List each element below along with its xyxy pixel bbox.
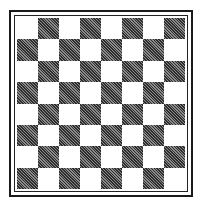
board-square-light <box>164 168 185 189</box>
board-square-dark <box>122 18 143 39</box>
board-square-light <box>122 168 143 189</box>
board-square-light <box>122 82 143 103</box>
board-square-dark <box>143 125 164 146</box>
board-square-dark <box>164 61 185 82</box>
board-square-light <box>17 61 38 82</box>
board-square-dark <box>143 168 164 189</box>
board-square-dark <box>143 39 164 60</box>
board-square-light <box>38 168 59 189</box>
board-square-dark <box>17 168 38 189</box>
board-square-dark <box>143 82 164 103</box>
board-square-light <box>101 61 122 82</box>
board-square-dark <box>38 61 59 82</box>
board-square-dark <box>164 104 185 125</box>
board-square-dark <box>17 82 38 103</box>
board-square-dark <box>38 18 59 39</box>
board-square-dark <box>122 104 143 125</box>
checkerboard-grid <box>17 18 185 189</box>
board-square-light <box>59 146 80 167</box>
board-square-dark <box>38 146 59 167</box>
board-square-dark <box>101 125 122 146</box>
board-inner-frame <box>14 15 188 192</box>
board-square-light <box>17 104 38 125</box>
board-square-dark <box>101 39 122 60</box>
board-square-light <box>164 82 185 103</box>
board-square-dark <box>164 146 185 167</box>
board-square-dark <box>101 82 122 103</box>
board-square-dark <box>122 146 143 167</box>
board-square-light <box>143 104 164 125</box>
board-square-light <box>38 82 59 103</box>
board-square-dark <box>59 82 80 103</box>
board-square-light <box>80 39 101 60</box>
board-square-light <box>38 125 59 146</box>
board-outer-frame <box>9 10 193 197</box>
board-square-light <box>143 18 164 39</box>
board-square-light <box>80 168 101 189</box>
board-square-dark <box>59 168 80 189</box>
board-square-dark <box>101 168 122 189</box>
board-square-light <box>80 125 101 146</box>
board-square-light <box>101 104 122 125</box>
board-square-dark <box>80 61 101 82</box>
board-square-dark <box>38 104 59 125</box>
board-square-light <box>59 104 80 125</box>
board-square-light <box>101 18 122 39</box>
board-square-light <box>17 18 38 39</box>
board-square-dark <box>80 18 101 39</box>
board-square-dark <box>80 146 101 167</box>
board-square-light <box>38 39 59 60</box>
board-square-light <box>122 125 143 146</box>
board-square-light <box>164 125 185 146</box>
board-square-light <box>122 39 143 60</box>
board-square-dark <box>59 39 80 60</box>
board-square-light <box>80 82 101 103</box>
board-square-light <box>143 61 164 82</box>
board-square-dark <box>17 39 38 60</box>
board-square-dark <box>122 61 143 82</box>
board-square-light <box>164 39 185 60</box>
board-square-light <box>143 146 164 167</box>
board-square-dark <box>17 125 38 146</box>
board-square-light <box>59 18 80 39</box>
board-square-dark <box>59 125 80 146</box>
board-square-light <box>59 61 80 82</box>
board-square-light <box>17 146 38 167</box>
board-square-dark <box>164 18 185 39</box>
board-square-light <box>101 146 122 167</box>
board-square-dark <box>80 104 101 125</box>
